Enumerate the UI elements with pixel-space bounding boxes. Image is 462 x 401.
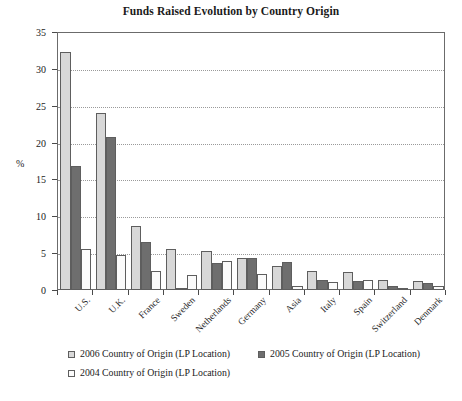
y-axis-tick-label: 35 [20, 27, 46, 38]
bar [176, 288, 186, 290]
x-axis-tick [339, 290, 340, 295]
legend-item-2006: 2006 Country of Origin (LP Location) [68, 348, 230, 359]
bar [272, 266, 282, 290]
x-axis-tick [445, 290, 446, 295]
bar [423, 283, 433, 290]
y-axis-tick-label: 15 [20, 174, 46, 185]
x-axis-label: Italy [319, 295, 338, 314]
bar [116, 255, 126, 290]
bar [328, 282, 338, 290]
bar-group [166, 32, 197, 290]
bar [343, 272, 353, 290]
legend-swatch-2004-icon [68, 370, 75, 377]
y-axis-title: % [16, 158, 24, 169]
legend-swatch-2006-icon [68, 351, 75, 358]
x-axis-label: Germany [236, 295, 268, 327]
bar [96, 113, 106, 290]
bar [60, 52, 70, 290]
y-axis-tick-label: 30 [20, 63, 46, 74]
bar [71, 166, 81, 290]
x-axis-tick [410, 290, 411, 295]
bar [257, 274, 267, 290]
bar [363, 280, 373, 290]
y-axis-tick [52, 143, 57, 144]
x-axis-label: U.S. [73, 295, 92, 314]
y-axis-tick [52, 69, 57, 70]
x-axis-label: Spain [351, 295, 373, 317]
y-axis-tick-label: 0 [20, 285, 46, 296]
bar [222, 261, 232, 290]
x-axis-tick [198, 290, 199, 295]
x-axis-label: U.K. [107, 295, 127, 315]
bar-group [60, 32, 91, 290]
y-axis-tick [52, 216, 57, 217]
bar [317, 280, 327, 290]
legend-label-2005: 2005 Country of Origin (LP Location) [270, 348, 420, 359]
bars-layer [57, 32, 445, 290]
bar-group [272, 32, 303, 290]
chart-legend: 2006 Country of Origin (LP Location) 200… [0, 348, 462, 393]
bar-group [237, 32, 268, 290]
bar [131, 226, 141, 290]
x-axis-label: Sweden [169, 295, 197, 323]
bar [292, 286, 302, 290]
bar [247, 258, 257, 290]
y-axis-tick-label: 5 [20, 248, 46, 259]
x-axis-label: Netherlands [193, 295, 233, 335]
bar-group [343, 32, 374, 290]
bar [237, 258, 247, 290]
bar [141, 242, 151, 290]
bar-group [307, 32, 338, 290]
bar-group [201, 32, 232, 290]
bar [433, 286, 443, 290]
bar [187, 275, 197, 290]
bar [282, 262, 292, 290]
y-axis-tick [52, 32, 57, 33]
legend-label-2006: 2006 Country of Origin (LP Location) [80, 348, 230, 359]
bar [106, 137, 116, 290]
y-axis-tick [52, 106, 57, 107]
y-axis-tick-label: 25 [20, 100, 46, 111]
bar [201, 251, 211, 290]
bar [81, 249, 91, 290]
bar-group [378, 32, 409, 290]
bar [151, 271, 161, 290]
y-axis-tick [52, 179, 57, 180]
y-axis-tick [52, 253, 57, 254]
x-axis-label: France [137, 295, 162, 320]
x-axis-tick [304, 290, 305, 295]
bar [388, 286, 398, 290]
chart-title: Funds Raised Evolution by Country Origin [0, 5, 462, 17]
x-axis-tick [163, 290, 164, 295]
x-axis-tick [233, 290, 234, 295]
bar [212, 263, 222, 290]
y-axis-tick-label: 20 [20, 137, 46, 148]
bar [378, 280, 388, 290]
legend-label-2004: 2004 Country of Origin (LP Location) [80, 367, 230, 378]
chart-container: Funds Raised Evolution by Country Origin… [0, 0, 462, 401]
y-axis-tick-label: 10 [20, 211, 46, 222]
bar [353, 281, 363, 290]
legend-item-2004: 2004 Country of Origin (LP Location) [68, 367, 230, 378]
legend-swatch-2005-icon [258, 351, 265, 358]
bar [398, 288, 408, 290]
x-axis-tick [374, 290, 375, 295]
bar [166, 249, 176, 290]
bar [413, 281, 423, 290]
x-axis-tick [92, 290, 93, 295]
bar-group [96, 32, 127, 290]
bar [307, 271, 317, 290]
bar-group [131, 32, 162, 290]
x-axis-tick [128, 290, 129, 295]
x-axis-label: Denmark [412, 295, 444, 327]
bar-group [413, 32, 444, 290]
x-axis-label: Asia [284, 295, 303, 314]
x-axis-tick [57, 290, 58, 295]
x-axis-label: Switzerland [370, 295, 409, 334]
x-axis-tick [269, 290, 270, 295]
legend-item-2005: 2005 Country of Origin (LP Location) [258, 348, 420, 359]
